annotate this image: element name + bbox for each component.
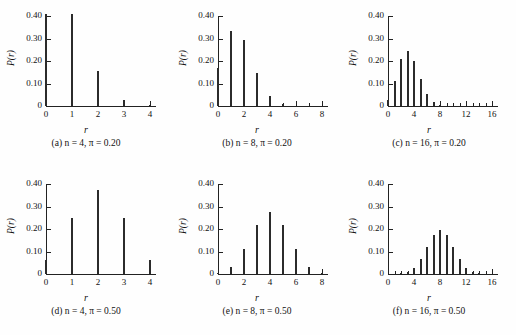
- x-minor-tick-c-11: [486, 103, 487, 106]
- chart-panel-d: P(r)00.100.200.300.4001234r(d) n = 4, π …: [0, 168, 172, 335]
- y-tick-f-1: [389, 252, 393, 253]
- plot-area-d: P(r)00.100.200.300.4001234r(d) n = 4, π …: [0, 168, 172, 335]
- y-tick-b-0: [219, 106, 223, 107]
- plot-area-b: P(r)00.100.200.300.4002468r(b) n = 8, π …: [172, 0, 342, 168]
- bar: [407, 272, 409, 274]
- x-tick-label-d-0: 0: [32, 277, 60, 287]
- panel-caption-b: (b) n = 8, π = 0.20: [172, 138, 342, 148]
- bar: [478, 273, 480, 274]
- y-tick-e-0: [219, 274, 223, 275]
- y-tick-d-4: [47, 184, 51, 185]
- bar: [97, 71, 99, 106]
- y-tick-label-d-1: 0.10: [6, 246, 42, 256]
- y-tick-label-c-3: 0.30: [348, 33, 384, 43]
- y-tick-b-3: [219, 39, 223, 40]
- bar: [433, 102, 435, 106]
- y-tick-e-3: [219, 207, 223, 208]
- y-tick-label-e-1: 0.10: [178, 246, 214, 256]
- bar: [420, 259, 422, 274]
- bar: [439, 105, 441, 106]
- bar: [472, 272, 474, 274]
- panel-caption-d: (d) n = 4, π = 0.50: [0, 306, 172, 316]
- y-tick-a-0: [47, 106, 51, 107]
- y-tick-label-f-3: 0.30: [348, 201, 384, 211]
- x-tick-label-f-2: 8: [426, 277, 454, 287]
- panel-caption-a: (a) n = 4, π = 0.20: [0, 138, 172, 148]
- y-tick-c-3: [389, 39, 393, 40]
- x-axis-line-b: [218, 106, 328, 107]
- y-tick-label-a-4: 0.40: [6, 10, 42, 20]
- x-tick-label-b-0: 0: [204, 109, 232, 119]
- x-axis-line-e: [218, 274, 328, 275]
- x-axis-label-f: r: [342, 292, 516, 303]
- x-tick-label-e-0: 0: [204, 277, 232, 287]
- x-tick-b-3: [296, 101, 297, 106]
- chart-panel-b: P(r)00.100.200.300.4002468r(b) n = 8, π …: [172, 0, 342, 168]
- y-tick-a-3: [47, 39, 51, 40]
- panel-caption-f: (f) n = 16, π = 0.50: [342, 306, 516, 316]
- y-tick-d-2: [47, 229, 51, 230]
- bar: [230, 31, 232, 106]
- x-axis-label-c: r: [342, 124, 516, 135]
- x-tick-c-4: [492, 101, 493, 106]
- bar: [71, 14, 73, 106]
- x-axis-label-a: r: [0, 124, 172, 135]
- x-minor-tick-b-3: [309, 103, 310, 106]
- y-tick-label-c-1: 0.10: [348, 78, 384, 88]
- x-tick-label-e-4: 8: [308, 277, 336, 287]
- bar: [282, 104, 284, 106]
- bar: [269, 212, 271, 274]
- x-tick-label-b-1: 2: [230, 109, 258, 119]
- chart-panel-e: P(r)00.100.200.300.4002468r(e) n = 8, π …: [172, 168, 342, 335]
- x-tick-f-0: [388, 269, 389, 274]
- x-tick-label-a-3: 3: [110, 109, 138, 119]
- x-axis-label-b: r: [172, 124, 342, 135]
- bar: [413, 268, 415, 274]
- y-tick-a-2: [47, 61, 51, 62]
- x-axis-line-d: [46, 274, 156, 275]
- y-tick-f-4: [389, 184, 393, 185]
- panel-caption-e: (e) n = 8, π = 0.50: [172, 306, 342, 316]
- x-axis-line-a: [46, 106, 156, 107]
- x-tick-label-a-4: 4: [136, 109, 164, 119]
- chart-panel-c: P(r)00.100.200.300.400481216r(c) n = 16,…: [342, 0, 516, 168]
- x-tick-label-a-1: 1: [58, 109, 86, 119]
- y-tick-e-4: [219, 184, 223, 185]
- x-axis-line-f: [388, 274, 498, 275]
- x-tick-label-b-4: 8: [308, 109, 336, 119]
- y-tick-label-f-4: 0.40: [348, 178, 384, 188]
- plot-area-c: P(r)00.100.200.300.400481216r(c) n = 16,…: [342, 0, 516, 168]
- y-tick-label-d-2: 0.20: [6, 223, 42, 233]
- x-axis-label-e: r: [172, 292, 342, 303]
- y-tick-c-0: [389, 106, 393, 107]
- bar: [465, 268, 467, 274]
- bar: [420, 79, 422, 106]
- bar: [387, 100, 389, 106]
- y-tick-label-d-3: 0.30: [6, 201, 42, 211]
- plot-area-f: P(r)00.100.200.300.400481216r(f) n = 16,…: [342, 168, 516, 335]
- x-tick-label-d-1: 1: [58, 277, 86, 287]
- x-tick-b-4: [322, 101, 323, 106]
- y-tick-f-3: [389, 207, 393, 208]
- bar: [149, 105, 151, 106]
- y-tick-a-4: [47, 16, 51, 17]
- x-tick-label-c-1: 4: [400, 109, 428, 119]
- y-tick-label-b-3: 0.30: [178, 33, 214, 43]
- bar: [400, 273, 402, 274]
- bar: [308, 267, 310, 274]
- x-tick-c-3: [466, 101, 467, 106]
- bar: [45, 14, 47, 106]
- bar: [45, 260, 47, 274]
- y-tick-label-e-4: 0.40: [178, 178, 214, 188]
- x-tick-label-d-4: 4: [136, 277, 164, 287]
- y-tick-f-2: [389, 229, 393, 230]
- x-axis-line-c: [388, 106, 498, 107]
- y-tick-f-0: [389, 274, 393, 275]
- x-tick-label-c-0: 0: [374, 109, 402, 119]
- bar: [321, 273, 323, 274]
- y-tick-label-c-4: 0.40: [348, 10, 384, 20]
- x-minor-tick-f-0: [395, 271, 396, 274]
- bar: [217, 273, 219, 274]
- bar: [452, 247, 454, 274]
- y-tick-label-b-2: 0.20: [178, 55, 214, 65]
